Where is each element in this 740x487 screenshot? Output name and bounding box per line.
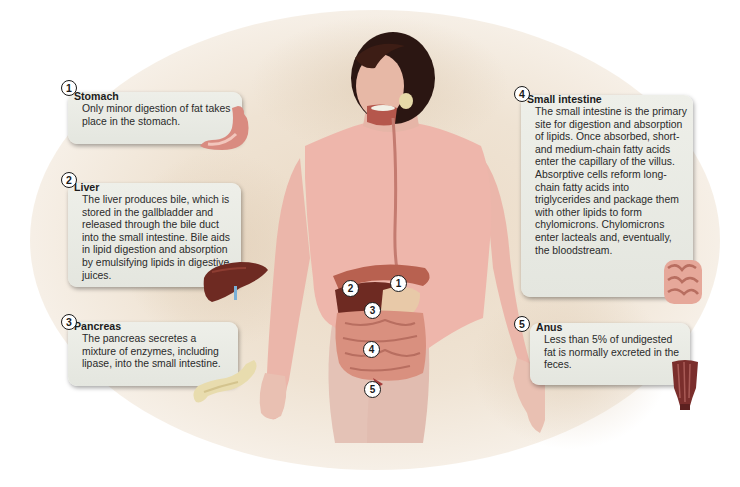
callout-title: Stomach [74, 90, 119, 103]
callout-number-3: 3 [61, 314, 77, 330]
pancreas-icon [190, 356, 260, 408]
figure-marker-2: 2 [342, 280, 359, 297]
liver-icon [200, 258, 270, 308]
stomach-icon [198, 104, 256, 154]
callout-title: Pancreas [74, 320, 121, 333]
callout-title: Anus [536, 321, 562, 334]
human-figure-illustration [255, 28, 545, 448]
callout-number-1: 1 [61, 80, 77, 96]
callout-title: Small intestine [527, 93, 602, 106]
figure-marker-4: 4 [363, 341, 380, 358]
figure-marker-3: 3 [364, 302, 381, 319]
figure-marker-5: 5 [364, 381, 381, 398]
callout-anus: Anus Less than 5% of undigested fat is n… [530, 323, 690, 385]
anus-icon [670, 358, 700, 412]
figure-marker-1: 1 [390, 275, 407, 292]
callout-text: The small intestine is the primary site … [535, 106, 687, 257]
callout-number-4: 4 [514, 86, 530, 102]
callout-number-2: 2 [61, 172, 77, 188]
small-intestine-icon [662, 258, 704, 306]
callout-title: Liver [74, 181, 99, 194]
callout-text: Less than 5% of undigested fat is normal… [544, 334, 684, 372]
callout-number-5: 5 [514, 316, 530, 332]
